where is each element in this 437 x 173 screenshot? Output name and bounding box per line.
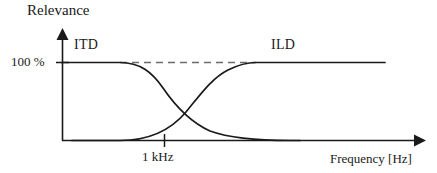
relevance-frequency-figure: Relevance 100 % ITD ILD 1 kHz Frequency … [0,0,437,173]
y-tick-label-100-percent: 100 % [11,55,45,68]
x-tick-label-1khz: 1 kHz [142,150,173,163]
curve-label-itd: ITD [74,38,98,52]
x-axis-title: Frequency [Hz] [330,152,412,165]
plot-canvas [0,0,437,173]
x-axis-arrow-icon [414,135,426,147]
curve-itd [62,63,300,141]
curve-label-ild: ILD [271,38,295,52]
ticks-group [56,63,165,148]
y-axis-title: Relevance [27,3,89,18]
axes-group [57,28,427,147]
y-axis-arrow-icon [57,28,69,40]
curve-ild [72,63,385,141]
